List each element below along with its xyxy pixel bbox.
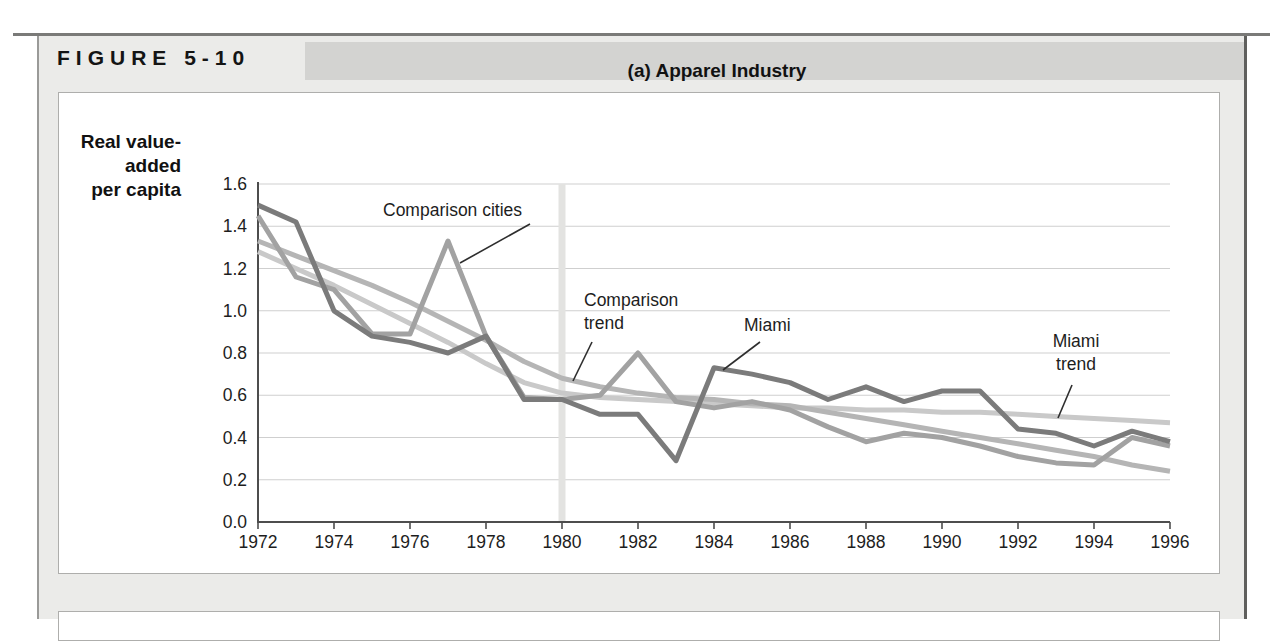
y-tick-label: 0.6 bbox=[223, 385, 247, 405]
x-tick-label: 1984 bbox=[695, 532, 734, 552]
x-tick-label: 1976 bbox=[391, 532, 430, 552]
y-tick-label: 1.6 bbox=[223, 174, 247, 194]
y-tick-label: 0.8 bbox=[223, 343, 247, 363]
chart-title: (a) Apparel Industry bbox=[427, 60, 1007, 82]
series-line-comparison-trend bbox=[258, 241, 1170, 471]
y-tick-label: 1.0 bbox=[223, 301, 248, 321]
x-tick-label: 1978 bbox=[467, 532, 506, 552]
x-tick-label: 1996 bbox=[1151, 532, 1190, 552]
axis-lines bbox=[258, 182, 1170, 522]
x-tick-label: 1990 bbox=[923, 532, 962, 552]
annotation-comparison-trend: Comparison trend bbox=[584, 289, 678, 335]
panel-b-top-edge bbox=[58, 611, 1220, 641]
x-tick-label: 1972 bbox=[239, 532, 278, 552]
highlight-band-1980 bbox=[559, 184, 566, 522]
x-tick-label: 1974 bbox=[315, 532, 354, 552]
annotation-pointer-line bbox=[460, 224, 530, 263]
annotation-pointer-line bbox=[1058, 385, 1072, 418]
annotation-comparison-cities: Comparison cities bbox=[383, 199, 522, 222]
y-tick-label: 0.4 bbox=[223, 428, 248, 448]
y-tick-label: 1.2 bbox=[223, 259, 247, 279]
annotation-pointer-line bbox=[573, 342, 592, 381]
x-tick-label: 1992 bbox=[999, 532, 1038, 552]
annotation-miami: Miami bbox=[744, 314, 791, 337]
annotation-miami-trend: Miami trend bbox=[1040, 330, 1112, 376]
x-tick-label: 1988 bbox=[847, 532, 886, 552]
x-tick-label: 1980 bbox=[543, 532, 582, 552]
y-tick-label: 0.0 bbox=[223, 512, 248, 532]
y-tick-label: 1.4 bbox=[223, 216, 248, 236]
x-tick-label: 1982 bbox=[619, 532, 658, 552]
y-axis-label: Real value- added per capita bbox=[33, 130, 181, 202]
annotation-pointer-line bbox=[723, 342, 760, 370]
figure-label: FIGURE 5-10 bbox=[57, 46, 250, 70]
x-tick-label: 1994 bbox=[1075, 532, 1114, 552]
x-tick-label: 1986 bbox=[771, 532, 810, 552]
y-tick-label: 0.2 bbox=[223, 470, 247, 490]
